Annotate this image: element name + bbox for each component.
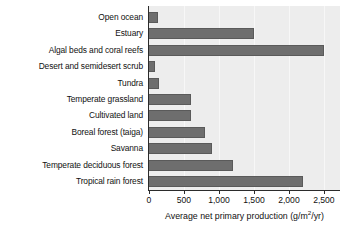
category-label-row: Boreal forest (taiga)	[0, 124, 146, 140]
x-axis-title: Average net primary production (g/m2/yr)	[149, 211, 340, 222]
category-label: Algal beds and coral reefs	[49, 46, 143, 55]
bar-row	[149, 124, 340, 140]
category-label: Cultivated land	[89, 111, 143, 120]
category-label-row: Tundra	[0, 75, 146, 91]
plot-area	[149, 6, 340, 190]
bar	[149, 12, 158, 23]
x-axis-line	[148, 190, 340, 191]
bars-group	[149, 9, 340, 190]
bar-chart: Open oceanEstuaryAlgal beds and coral re…	[0, 0, 361, 233]
x-tick-label: 1,000	[208, 195, 230, 205]
bar-row	[149, 75, 340, 91]
bar-row	[149, 174, 340, 190]
x-tick-mark	[219, 191, 220, 194]
bar	[149, 110, 191, 121]
bar-row	[149, 91, 340, 107]
category-label: Tundra	[117, 79, 143, 88]
x-tick-mark	[289, 191, 290, 194]
category-label: Savanna	[111, 144, 143, 153]
x-tick-label: 2,000	[278, 195, 300, 205]
category-label: Estuary	[115, 29, 143, 38]
bar	[149, 160, 233, 171]
x-axis-title-suffix: /yr)	[311, 211, 324, 221]
x-tick-mark	[184, 191, 185, 194]
category-label: Tropical rain forest	[76, 177, 143, 186]
category-label: Desert and semidesert scrub	[39, 62, 143, 71]
category-label-row: Estuary	[0, 25, 146, 41]
bar	[149, 61, 155, 72]
y-axis-line	[148, 6, 149, 191]
bar-row	[149, 42, 340, 58]
x-tick-mark	[324, 191, 325, 194]
x-tick-label: 2,500	[313, 195, 335, 205]
bar	[149, 127, 205, 138]
category-label-row: Cultivated land	[0, 108, 146, 124]
category-label-row: Algal beds and coral reefs	[0, 42, 146, 58]
category-label-row: Temperate grassland	[0, 91, 146, 107]
bar	[149, 143, 212, 154]
bar	[149, 45, 324, 56]
bar-row	[149, 9, 340, 25]
category-label: Temperate deciduous forest	[42, 161, 143, 170]
x-axis-title-text: Average net primary production (g/m	[165, 211, 308, 221]
x-tick-label: 0	[147, 195, 152, 205]
bar	[149, 78, 159, 89]
x-tick-mark	[254, 191, 255, 194]
category-label-row: Tropical rain forest	[0, 174, 146, 190]
category-label-row: Temperate deciduous forest	[0, 157, 146, 173]
category-label-row: Desert and semidesert scrub	[0, 58, 146, 74]
bar	[149, 94, 191, 105]
bar	[149, 28, 254, 39]
bar-row	[149, 157, 340, 173]
bar	[149, 176, 303, 187]
bar-row	[149, 108, 340, 124]
bar-row	[149, 141, 340, 157]
x-tick-mark	[149, 191, 150, 194]
category-label: Boreal forest (taiga)	[72, 128, 143, 137]
x-tick-label: 500	[177, 195, 191, 205]
category-axis: Open oceanEstuaryAlgal beds and coral re…	[0, 9, 146, 190]
category-label: Temperate grassland	[67, 95, 143, 104]
bar-row	[149, 58, 340, 74]
category-label-row: Open ocean	[0, 9, 146, 25]
x-tick-label: 1,500	[243, 195, 265, 205]
category-label: Open ocean	[98, 13, 143, 22]
category-label-row: Savanna	[0, 141, 146, 157]
bar-row	[149, 25, 340, 41]
